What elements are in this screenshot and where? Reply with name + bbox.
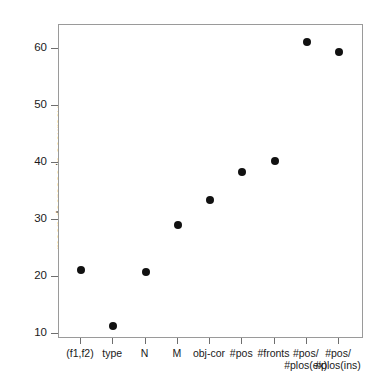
data-point: [77, 266, 85, 274]
data-point: [109, 322, 117, 330]
plot-area: [58, 24, 363, 338]
data-point: [271, 157, 279, 165]
data-point: [303, 38, 311, 46]
x-axis-tick-mark: [145, 338, 146, 344]
y-axis-tick-label: 20: [7, 270, 47, 282]
y-axis-tick-mark: [51, 333, 58, 334]
y-axis-tick-label: 40: [7, 156, 47, 168]
data-point: [174, 221, 182, 229]
data-points-layer: [59, 25, 362, 337]
y-axis-tick-mark: [51, 48, 58, 49]
data-point: [238, 168, 246, 176]
x-axis-tick-mark: [338, 338, 339, 344]
y-axis-tick-mark: [51, 219, 58, 220]
y-axis-tick-label: 30: [7, 213, 47, 225]
x-axis-tick-mark: [209, 338, 210, 344]
data-point: [142, 268, 150, 276]
x-axis-tick-mark: [306, 338, 307, 344]
y-axis-tick-label: 10: [7, 327, 47, 339]
y-axis-tick-mark: [51, 105, 58, 106]
x-axis-tick-mark: [177, 338, 178, 344]
data-point: [206, 196, 214, 204]
x-axis-tick-mark: [112, 338, 113, 344]
y-axis-tick-label: 50: [7, 99, 47, 111]
x-axis-tick-mark: [241, 338, 242, 344]
x-axis-tick-mark: [80, 338, 81, 344]
scatter-plot-figure: mean decrease in accuracy 102030405060 (…: [0, 0, 390, 385]
x-axis-tick-mark: [274, 338, 275, 344]
y-axis-tick-mark: [51, 162, 58, 163]
x-axis-tick-label: #pos/ #plos(ins): [293, 347, 383, 371]
data-point: [335, 48, 343, 56]
y-axis-tick-mark: [51, 276, 58, 277]
y-axis-tick-label: 60: [7, 42, 47, 54]
